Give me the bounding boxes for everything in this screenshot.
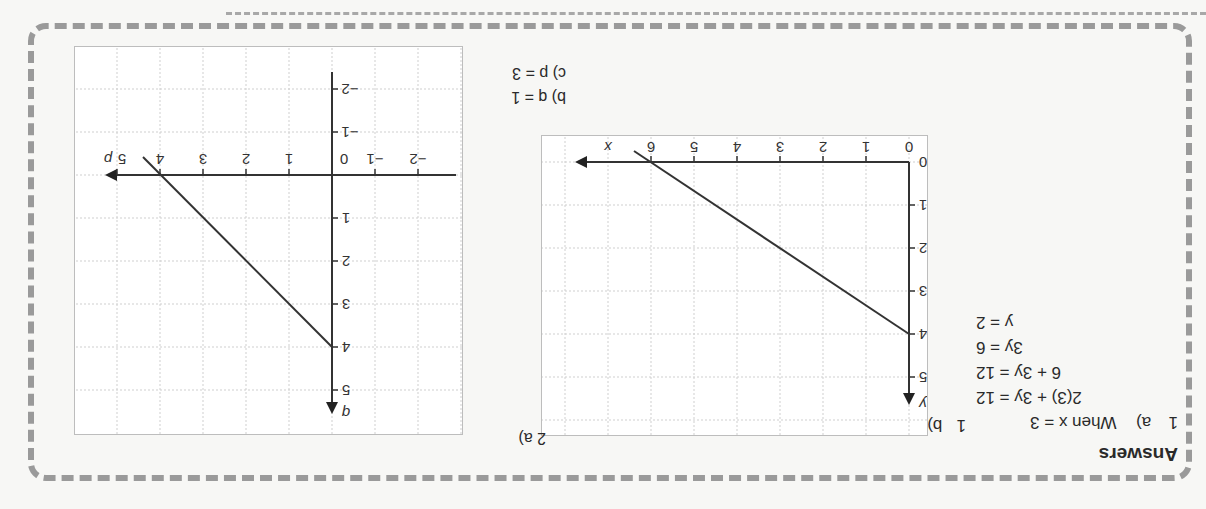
question-1a: 1 a) When x = 3 [1030,410,1178,435]
svg-text:x: x [604,139,613,156]
svg-text:1: 1 [342,210,350,227]
question-2a-label: 2 a) [518,429,546,447]
svg-text:3: 3 [199,151,207,168]
svg-text:0: 0 [340,151,348,168]
svg-text:5: 5 [919,369,927,386]
page-edge-divider [226,12,1206,15]
part-label: a) [1121,410,1151,435]
svg-text:3: 3 [342,296,350,313]
svg-text:4: 4 [342,339,350,356]
textbook-page: Answers 1 a) When x = 3 2(3) + 3y = 12 6… [0,0,1206,509]
part-label: b) [927,416,942,435]
svg-text:−1: −1 [366,151,383,168]
svg-text:y: y [918,396,927,413]
svg-text:4: 4 [156,151,164,168]
graph-1-xy: 012 345 6 012 345 x y [541,135,928,436]
svg-text:5: 5 [342,382,350,399]
svg-text:3: 3 [776,139,784,156]
svg-text:q: q [341,405,350,422]
svg-text:2: 2 [342,253,350,270]
graph-1-svg: 012 345 6 012 345 x y [542,136,927,435]
working-line: When x = 3 [1030,413,1116,432]
question-2-answers: b) q = 1 c) p = 3 [511,61,566,109]
question-number: 1 [957,416,966,435]
svg-text:4: 4 [733,139,741,156]
working-line: y = 2 [976,310,1126,335]
svg-text:−1: −1 [341,124,358,141]
svg-text:2: 2 [242,151,250,168]
svg-text:p: p [104,151,113,168]
svg-text:1: 1 [919,197,927,214]
svg-text:0: 0 [905,139,913,156]
question-1b-label: 1 b) [927,415,966,435]
question-number: 1 [1156,410,1178,435]
answers-heading: Answers [1099,443,1178,465]
graph-2-svg: −2−10 123 45 −2−1 123 45 p q [75,47,462,434]
svg-text:4: 4 [919,326,927,343]
svg-text:3: 3 [919,283,927,300]
working-steps: 2(3) + 3y = 12 6 + 3y = 12 3y = 6 y = 2 [976,310,1126,410]
svg-text:1: 1 [285,151,293,168]
working-line: 2(3) + 3y = 12 [976,385,1126,410]
svg-text:−2: −2 [341,81,358,98]
answer-2b: b) q = 1 [511,85,566,109]
svg-text:0: 0 [919,154,927,171]
answer-2c: c) p = 3 [511,61,566,85]
svg-text:6: 6 [647,139,655,156]
svg-text:2: 2 [919,240,927,257]
svg-text:1: 1 [862,139,870,156]
svg-text:−2: −2 [409,151,426,168]
svg-text:5: 5 [690,139,698,156]
working-line: 6 + 3y = 12 [976,360,1126,385]
graph-2-pq: −2−10 123 45 −2−1 123 45 p q [74,46,463,435]
svg-text:5: 5 [118,151,126,168]
svg-text:2: 2 [819,139,827,156]
working-line: 3y = 6 [976,335,1126,360]
